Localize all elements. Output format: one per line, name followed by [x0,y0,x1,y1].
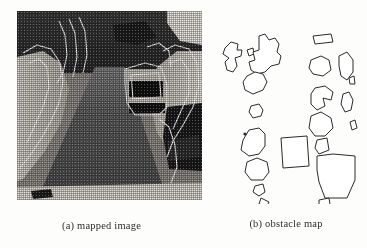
obstacle-blob [253,184,265,196]
photo-object-shadow [129,81,163,97]
obstacle-blob [223,42,242,72]
obstacle-blob [249,104,263,118]
obstacle-blob-dot [243,132,246,135]
panel-obstacle-map [207,14,362,204]
obstacle-blob [350,120,357,130]
photo-svg [17,11,202,200]
obstacle-blob [315,138,329,154]
mapped-image-photo [17,11,202,200]
obstacle-blob-rect [281,136,309,168]
panel-mapped-image [17,11,202,200]
obstacle-blob [309,112,333,136]
obstacle-blob [349,76,355,84]
obstacle-blob [339,52,353,80]
obstacle-blob [319,198,331,204]
obstacle-blob [245,158,269,180]
obstacle-blob [243,72,267,94]
figure-container: (a) mapped image (b) obstacle map [0,0,367,248]
obstacle-blob [341,92,353,112]
caption-mapped-image: (a) mapped image [0,220,203,231]
obstacle-blob [311,86,333,110]
obstacle-blob [259,198,269,204]
obstacle-blob-group [223,34,357,204]
obstacle-map-svg [207,14,362,204]
obstacle-blob [309,56,331,76]
photo-object-shadow-2 [129,103,165,113]
caption-obstacle-map: (b) obstacle map [205,218,367,229]
obstacle-blob [241,128,265,156]
obstacle-blob-rect [317,154,355,198]
obstacle-blob [249,34,281,74]
obstacle-blob [313,34,333,44]
obstacle-map-canvas [207,14,362,204]
